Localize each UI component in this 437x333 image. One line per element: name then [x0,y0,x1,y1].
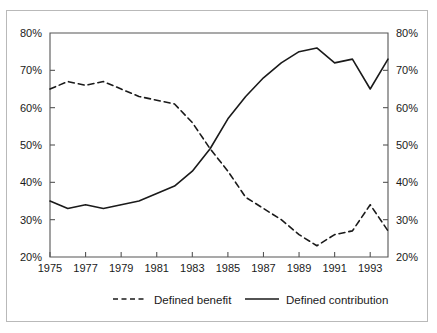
plot-frame [50,33,388,257]
y-axis-right-labels: 20%30%40%50%60%70%80% [396,27,418,263]
x-axis-label: 1977 [73,262,97,274]
x-axis-labels: 1975197719791981198319851987198919911993 [38,262,383,274]
x-axis-label: 1975 [38,262,62,274]
x-axis-label: 1983 [180,262,204,274]
y-axis-label-right: 20% [396,251,418,263]
y-axis-label-right: 50% [396,139,418,151]
y-axis-right-ticks [383,70,388,219]
y-axis-label-right: 70% [396,64,418,76]
y-axis-label-right: 60% [396,102,418,114]
legend-label-defined-benefit: Defined benefit [154,294,232,306]
x-axis-label: 1979 [109,262,133,274]
y-axis-left-ticks [50,70,55,219]
x-axis-label: 1981 [144,262,168,274]
y-axis-label-left: 80% [20,27,42,39]
y-axis-label-right: 40% [396,176,418,188]
series-line-defined-contribution [50,48,388,209]
y-axis-label-right: 80% [396,27,418,39]
x-axis-ticks [50,252,370,257]
x-axis-label: 1987 [251,262,275,274]
x-axis-label: 1993 [358,262,382,274]
x-axis-label: 1989 [287,262,311,274]
y-axis-label-left: 40% [20,176,42,188]
plot-axes [50,33,388,257]
y-axis-left-labels: 20%30%40%50%60%70%80% [20,27,42,263]
y-axis-label-left: 50% [20,139,42,151]
y-axis-label-left: 60% [20,102,42,114]
y-axis-label-left: 70% [20,64,42,76]
data-series-group [50,48,388,246]
chart-legend: Defined benefitDefined contribution [113,294,388,306]
y-axis-label-right: 30% [396,214,418,226]
y-axis-label-left: 30% [20,214,42,226]
chart-figure: 20%30%40%50%60%70%80% 20%30%40%50%60%70%… [0,0,437,333]
x-axis-label: 1991 [322,262,346,274]
legend-label-defined-contribution: Defined contribution [286,294,388,306]
series-line-defined-benefit [50,82,388,246]
line-chart: 20%30%40%50%60%70%80% 20%30%40%50%60%70%… [0,0,437,333]
x-axis-label: 1985 [216,262,240,274]
